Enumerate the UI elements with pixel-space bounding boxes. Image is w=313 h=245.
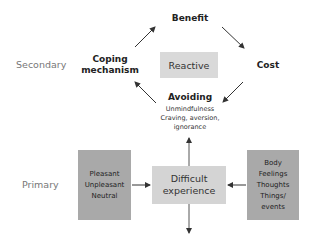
source-item: Body — [264, 158, 282, 169]
arrow-coping-to-benefit — [135, 27, 155, 47]
difficult-experience-box: Difficult experience — [152, 166, 226, 204]
node-benefit: Benefit — [160, 13, 220, 24]
reactive-box: Reactive — [160, 52, 218, 78]
difficult-line-1: Difficult — [171, 173, 208, 185]
node-avoiding: Avoiding — [155, 92, 225, 103]
avoiding-details: Unmindfulness Craving, aversion, ignoran… — [150, 105, 230, 132]
valence-item: Unpleasant — [85, 180, 125, 191]
source-item: Things/ — [260, 191, 286, 202]
coping-line-1: Coping — [76, 54, 144, 65]
avoiding-detail: Craving, aversion, — [150, 114, 230, 123]
source-item: events — [261, 202, 285, 213]
source-item: Thoughts — [257, 180, 290, 191]
level-label-secondary: Secondary — [16, 59, 66, 70]
arrow-benefit-to-cost — [222, 27, 244, 48]
arrow-cost-to-avoiding — [223, 82, 243, 102]
valence-item: Neutral — [92, 191, 118, 202]
sources-box: Body Feelings Thoughts Things/ events — [247, 150, 299, 220]
source-item: Feelings — [259, 169, 288, 180]
node-cost: Cost — [248, 60, 288, 71]
valence-box: Pleasant Unpleasant Neutral — [78, 150, 131, 220]
node-coping-mechanism: Coping mechanism — [76, 54, 144, 76]
level-label-primary: Primary — [22, 179, 59, 190]
difficult-line-2: experience — [163, 185, 216, 197]
avoiding-detail: Unmindfulness — [150, 105, 230, 114]
arrow-avoiding-to-coping — [135, 82, 156, 103]
coping-line-2: mechanism — [76, 65, 144, 76]
avoiding-detail: ignorance — [150, 123, 230, 132]
valence-item: Pleasant — [90, 169, 120, 180]
